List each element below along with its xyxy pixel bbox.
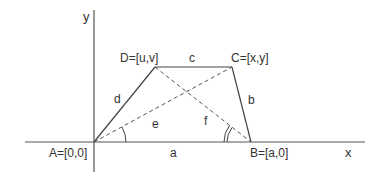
angle-arc-a [122, 127, 126, 142]
x-axis-label: x [345, 146, 352, 159]
point-label-d: D=[u,v] [120, 52, 158, 64]
point-label-a: A=[0,0] [49, 147, 87, 159]
point-label-c: C=[x,y] [231, 52, 269, 64]
side-label-a: a [170, 147, 177, 159]
side-label-d: d [114, 93, 121, 105]
diagonal-f [155, 67, 251, 142]
diagonal-label-e: e [152, 118, 159, 130]
y-axis-label: y [83, 10, 90, 23]
side-label-b: b [248, 94, 255, 106]
point-label-b: B=[a,0] [250, 147, 288, 159]
trapezoid-diagram: y x D=[u,v] C=[x,y] A=[0,0] B=[a,0] c d … [0, 0, 384, 179]
diagonal-label-f: f [204, 115, 207, 127]
side-label-c: c [189, 52, 195, 64]
angle-arc-b-inner [227, 128, 232, 143]
side-d [94, 67, 155, 142]
